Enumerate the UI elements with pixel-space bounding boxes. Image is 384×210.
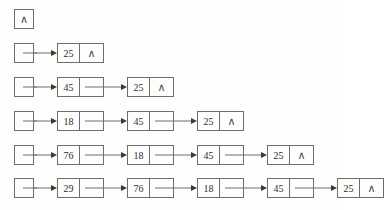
list-node: 25∧ <box>337 178 384 198</box>
head-pointer-box <box>14 111 34 131</box>
pointer-arrow <box>34 83 57 92</box>
list-node: 76 <box>127 178 174 198</box>
list-node: 25∧ <box>267 145 314 165</box>
arrow-head-icon <box>121 118 127 124</box>
node-value: 76 <box>58 146 80 164</box>
arrow-shaft <box>174 155 192 156</box>
pointer-arrow <box>34 49 57 58</box>
list-node: 25∧ <box>197 111 244 131</box>
list-node: 45 <box>197 145 244 165</box>
node-pointer-stub <box>295 188 314 189</box>
node-next-pointer-cell <box>80 78 103 96</box>
list-node: 25∧ <box>127 77 174 97</box>
pointer-arrow <box>104 117 127 126</box>
head-pointer-box <box>14 43 34 63</box>
arrow-shaft <box>314 188 332 189</box>
pointer-arrow <box>174 151 197 160</box>
node-null-pointer-cell: ∧ <box>360 179 383 197</box>
arrow-shaft <box>104 121 122 122</box>
list-row: 25∧ <box>14 42 104 64</box>
arrow-head-icon <box>121 152 127 158</box>
arrow-head-icon <box>191 152 197 158</box>
null-pointer-icon: ∧ <box>227 116 235 127</box>
pointer-arrow <box>104 184 127 193</box>
list-node: 18 <box>197 178 244 198</box>
list-node: 29 <box>57 178 104 198</box>
node-null-pointer-cell: ∧ <box>80 44 103 62</box>
arrow-shaft <box>34 53 52 54</box>
arrow-head-icon <box>191 118 197 124</box>
null-pointer-icon: ∧ <box>20 14 28 25</box>
pointer-arrow <box>34 117 57 126</box>
pointer-arrow <box>314 184 337 193</box>
arrow-shaft <box>104 155 122 156</box>
node-value: 18 <box>58 112 80 130</box>
node-value: 25 <box>268 146 290 164</box>
arrow-head-icon <box>331 185 337 191</box>
arrow-shaft <box>34 87 52 88</box>
node-value: 25 <box>128 78 150 96</box>
node-next-pointer-cell <box>220 146 243 164</box>
head-pointer-box <box>14 77 34 97</box>
arrow-head-icon <box>261 185 267 191</box>
node-pointer-stub <box>225 188 244 189</box>
list-node: 45 <box>267 178 314 198</box>
arrow-shaft <box>34 188 52 189</box>
arrow-head-icon <box>51 84 57 90</box>
pointer-arrow <box>34 184 57 193</box>
node-pointer-stub <box>225 155 244 156</box>
arrow-head-icon <box>261 152 267 158</box>
node-pointer-stub <box>155 121 174 122</box>
arrow-head-icon <box>51 118 57 124</box>
pointer-arrow <box>34 151 57 160</box>
arrow-head-icon <box>121 84 127 90</box>
null-pointer-icon: ∧ <box>367 183 375 194</box>
node-value: 45 <box>268 179 290 197</box>
node-value: 18 <box>128 146 150 164</box>
node-pointer-stub <box>155 188 174 189</box>
node-next-pointer-cell <box>150 179 173 197</box>
node-next-pointer-cell <box>220 179 243 197</box>
list-row: 76184525∧ <box>14 144 314 166</box>
null-pointer-icon: ∧ <box>87 48 95 59</box>
node-value: 45 <box>128 112 150 130</box>
node-null-pointer-cell: ∧ <box>290 146 313 164</box>
head-pointer-box <box>14 145 34 165</box>
list-node: 18 <box>127 145 174 165</box>
pointer-arrow <box>174 184 197 193</box>
node-next-pointer-cell <box>150 112 173 130</box>
node-value: 18 <box>198 179 220 197</box>
node-next-pointer-cell <box>150 146 173 164</box>
list-row: 2976184525∧ <box>14 177 384 199</box>
head-pointer-null-box: ∧ <box>14 9 34 29</box>
list-node: 76 <box>57 145 104 165</box>
pointer-arrow <box>244 151 267 160</box>
node-null-pointer-cell: ∧ <box>150 78 173 96</box>
pointer-arrow <box>244 184 267 193</box>
null-pointer-icon: ∧ <box>157 82 165 93</box>
list-node: 45 <box>127 111 174 131</box>
arrow-head-icon <box>51 152 57 158</box>
arrow-shaft <box>104 188 122 189</box>
list-node: 25∧ <box>57 43 104 63</box>
node-value: 45 <box>198 146 220 164</box>
list-row: ∧ <box>14 8 34 30</box>
node-next-pointer-cell <box>80 146 103 164</box>
arrow-head-icon <box>51 50 57 56</box>
node-value: 25 <box>58 44 80 62</box>
head-pointer-box <box>14 178 34 198</box>
pointer-arrow <box>104 83 127 92</box>
pointer-arrow <box>104 151 127 160</box>
node-next-pointer-cell <box>80 179 103 197</box>
arrow-shaft <box>34 155 52 156</box>
null-pointer-icon: ∧ <box>297 150 305 161</box>
arrow-shaft <box>104 87 122 88</box>
node-next-pointer-cell <box>290 179 313 197</box>
node-value: 29 <box>58 179 80 197</box>
node-null-pointer-cell: ∧ <box>220 112 243 130</box>
node-value: 25 <box>338 179 360 197</box>
pointer-arrow <box>174 117 197 126</box>
node-pointer-stub <box>85 121 104 122</box>
node-pointer-stub <box>85 87 104 88</box>
